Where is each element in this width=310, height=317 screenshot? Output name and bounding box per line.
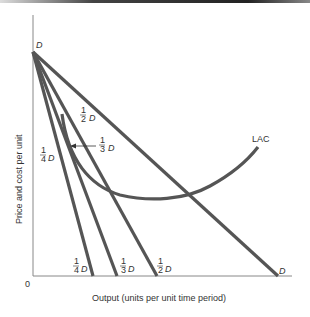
demand-line-third-d [33,52,117,276]
svg-text:D: D [48,153,55,163]
label-quarter-d-mid: 1 4 D [40,145,55,164]
x-axis-label: Output (units per unit time period) [92,293,226,303]
label-half-d-axis: 1 2 D [157,256,172,275]
origin-label: 0 [25,279,30,289]
svg-text:3: 3 [121,265,126,275]
svg-text:4: 4 [41,154,46,164]
label-third-d-mid: 1 3 D [99,135,115,154]
svg-text:D: D [165,264,172,274]
label-lac: LAC [252,134,270,144]
svg-text:D: D [89,113,96,123]
svg-text:D: D [81,264,88,274]
svg-text:D: D [108,143,115,153]
svg-text:2: 2 [158,265,163,275]
label-d-bottom: D [279,266,286,276]
y-axis-label: Price and cost per unit [14,134,24,224]
svg-text:2: 2 [81,114,86,124]
demand-line-quarter-d [33,52,93,276]
label-quarter-d-axis: 1 4 D [73,256,88,275]
demand-line-half-d [33,52,157,276]
chart: D 1 2 D 1 3 D 1 4 D LAC 1 4 D 1 3 D 1 2 … [0,0,310,317]
svg-text:3: 3 [100,144,105,154]
svg-text:4: 4 [74,265,79,275]
label-third-d-axis: 1 3 D [120,256,135,275]
label-d-top: D [36,40,43,50]
svg-text:D: D [128,264,135,274]
